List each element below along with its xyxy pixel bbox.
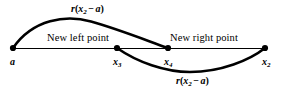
lower-arc-expression-label: r(x2−a) [176,76,209,88]
new-right-point-label: New right point [170,33,238,44]
node-dot-a [10,45,16,51]
node-label-a: a [10,57,15,69]
node-dot-x4 [165,45,171,51]
node-label-x2: x2 [262,57,271,69]
new-left-point-label: New left point [47,33,109,44]
figure-canvas [0,0,281,93]
node-label-x3: x3 [113,57,122,69]
node-dot-x2 [262,45,268,51]
upper-arc-expr-close: ) [100,3,103,14]
node-label-x2-subscript: 2 [267,61,271,69]
upper-arc-expression-label: r(x2−a) [71,4,104,16]
node-label-x3-subscript: 3 [118,61,122,69]
lower-arc-expr-close: ) [205,75,208,86]
lower-arc [117,48,265,72]
node-label-x4: x4 [164,57,173,69]
golden-section-search-figure: r(x2−a) r(x2−a) New left point New right… [0,0,281,93]
node-label-a-var: a [10,56,15,67]
node-label-x4-subscript: 4 [169,61,173,69]
node-dot-x3 [114,45,120,51]
